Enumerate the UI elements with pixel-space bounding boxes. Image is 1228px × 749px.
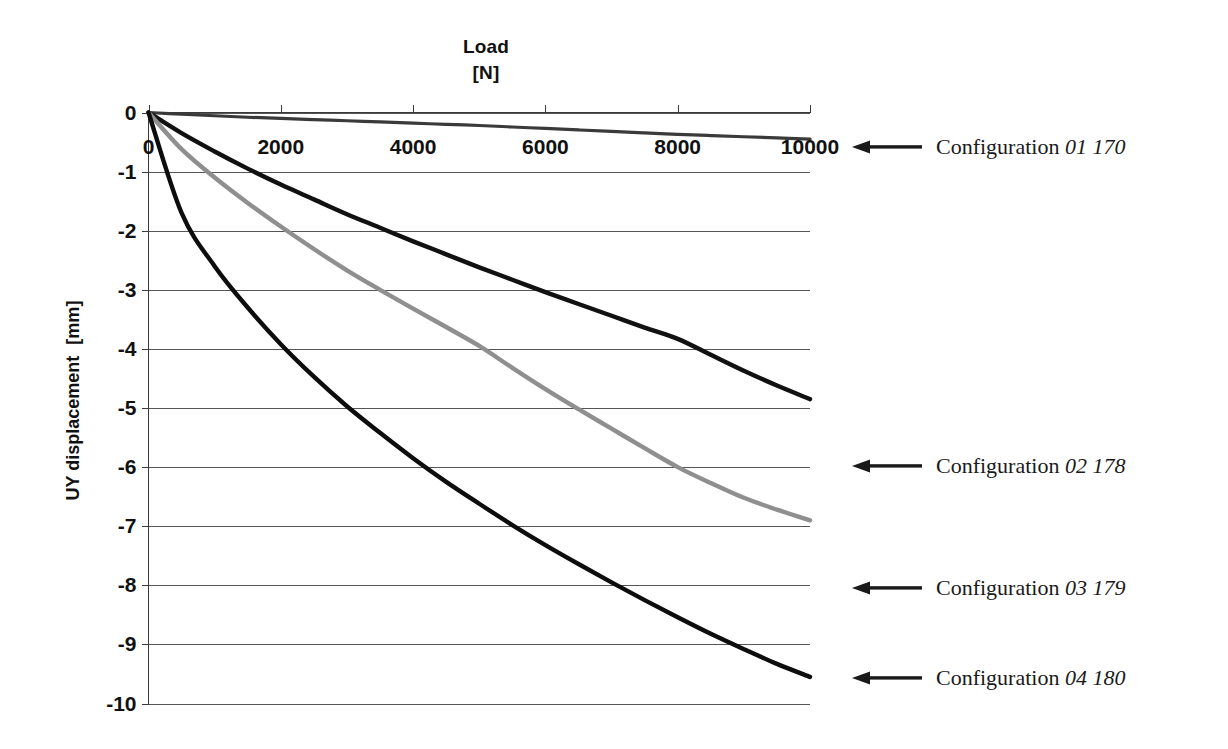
annotation-number-02: 02 178 [1065, 453, 1126, 478]
series-line-4 [149, 113, 811, 677]
annotation-label-03: Configuration 03 179 [936, 575, 1125, 601]
annotation-label-04: Configuration 04 180 [936, 665, 1125, 691]
data-series-group [149, 113, 811, 677]
annotation-configuration-02: Configuration 02 178 [852, 453, 1125, 479]
y-tick-label: -7 [91, 515, 137, 536]
arrow-left-icon [852, 670, 922, 686]
y-tick-label: 0 [91, 102, 137, 123]
x-tick-label: 0 [94, 136, 204, 157]
annotation-label-02: Configuration 02 178 [936, 453, 1125, 479]
y-tick-label: -10 [91, 693, 137, 714]
annotation-configuration-04: Configuration 04 180 [852, 665, 1125, 691]
arrow-left-icon [852, 139, 922, 155]
annotation-number-03: 03 179 [1065, 575, 1126, 600]
x-tick-label: 6000 [490, 136, 600, 157]
annotation-text-04: Configuration [936, 665, 1059, 690]
y-tick-label: -4 [91, 338, 137, 359]
x-tick-label: 10000 [755, 136, 865, 157]
annotation-number-01: 01 170 [1065, 134, 1126, 159]
annotation-number-04: 04 180 [1065, 665, 1126, 690]
annotation-text-01: Configuration [936, 134, 1059, 159]
annotation-configuration-03: Configuration 03 179 [852, 575, 1125, 601]
y-tick-label: -9 [91, 633, 137, 654]
x-tick-label: 8000 [623, 136, 733, 157]
arrow-left-icon [852, 458, 922, 474]
y-tick-label: -5 [91, 397, 137, 418]
annotation-configuration-01: Configuration 01 170 [852, 134, 1125, 160]
annotation-label-01: Configuration 01 170 [936, 134, 1125, 160]
y-tick-label: -8 [91, 574, 137, 595]
x-axis [142, 105, 811, 705]
x-tick-label: 4000 [358, 136, 468, 157]
annotation-text-03: Configuration [936, 575, 1059, 600]
y-tick-label: -6 [91, 456, 137, 477]
x-tick-label: 2000 [226, 136, 336, 157]
plot-area [0, 0, 1228, 749]
arrow-left-icon [852, 580, 922, 596]
annotation-text-02: Configuration [936, 453, 1059, 478]
series-line-3 [149, 113, 811, 521]
chart-canvas: Load [N] UY displacement [mm] 0-1-2-3-4-… [0, 0, 1228, 749]
y-tick-label: -1 [91, 161, 137, 182]
y-tick-label: -3 [91, 279, 137, 300]
y-tick-label: -2 [91, 220, 137, 241]
